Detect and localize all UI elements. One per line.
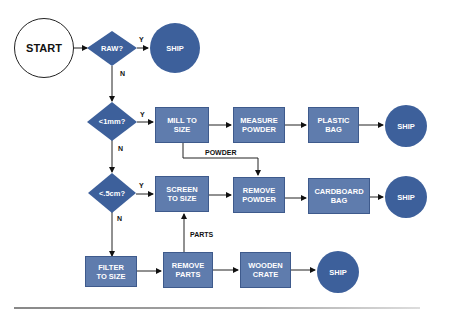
start-label: START	[26, 44, 62, 53]
decision-lt5cm-label: <.5cm?	[88, 173, 136, 213]
cm-no-label: N	[117, 215, 122, 222]
bottom-divider	[14, 307, 420, 309]
cardboard-bag-label: CARDBOARD BAG	[314, 187, 363, 205]
wooden-crate-label: WOODEN CRATE	[248, 261, 283, 279]
cm-yes-label: Y	[139, 182, 144, 189]
decision-lt5cm: <.5cm?	[88, 173, 136, 213]
remove-parts-box: REMOVE PARTS	[163, 252, 213, 288]
screen-to-size-box: SCREEN TO SIZE	[155, 176, 209, 212]
raw-yes-label: Y	[139, 36, 144, 43]
start-node: START	[14, 18, 74, 78]
measure-powder-box: MEASURE POWDER	[233, 107, 285, 143]
mill-to-size-label: MILL TO SIZE	[167, 116, 197, 134]
edge-mill-removepowder	[183, 143, 258, 175]
powder-label: POWDER	[205, 149, 237, 156]
ship-node-4: SHIP	[317, 251, 359, 293]
parts-label: PARTS	[190, 231, 213, 238]
cardboard-bag-box: CARDBOARD BAG	[308, 178, 370, 214]
decision-lt1mm-label: <1mm?	[87, 102, 137, 141]
remove-powder-label: REMOVE POWDER	[242, 186, 276, 204]
screen-to-size-label: SCREEN TO SIZE	[166, 185, 197, 203]
wooden-crate-box: WOODEN CRATE	[240, 252, 291, 288]
ship-node-2: SHIP	[385, 105, 427, 147]
filter-to-size-label: FILTER TO SIZE	[96, 263, 125, 281]
remove-parts-label: REMOVE PARTS	[172, 261, 205, 279]
plastic-bag-label: PLASTIC BAG	[317, 116, 349, 134]
ship-label-4: SHIP	[329, 268, 347, 277]
remove-powder-box: REMOVE POWDER	[233, 177, 285, 213]
plastic-bag-box: PLASTIC BAG	[308, 107, 359, 143]
ship-label-2: SHIP	[397, 122, 415, 131]
ship-node-1: SHIP	[150, 23, 200, 73]
raw-no-label: N	[120, 70, 125, 77]
decision-lt1mm: <1mm?	[87, 102, 137, 141]
ship-label-3: SHIP	[397, 193, 415, 202]
mill-to-size-box: MILL TO SIZE	[155, 107, 209, 143]
decision-raw: RAW?	[87, 31, 137, 66]
ship-node-3: SHIP	[385, 176, 427, 218]
decision-raw-label: RAW?	[87, 31, 137, 66]
mm-yes-label: Y	[140, 111, 145, 118]
measure-powder-label: MEASURE POWDER	[240, 116, 278, 134]
filter-to-size-box: FILTER TO SIZE	[85, 256, 137, 287]
ship-label-1: SHIP	[166, 44, 184, 53]
mm-no-label: N	[118, 145, 123, 152]
